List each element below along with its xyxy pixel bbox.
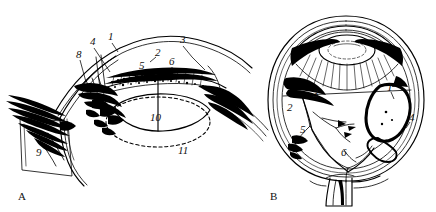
label-a-3: 3 (180, 34, 186, 45)
label-a-8: 8 (76, 49, 82, 60)
label-b-1: 1 (387, 82, 393, 93)
panel-b-leaders (0, 0, 436, 212)
label-a-11: 11 (178, 145, 188, 156)
label-a-4: 4 (90, 36, 96, 47)
label-a-9: 9 (36, 147, 42, 158)
label-a-2: 2 (155, 47, 161, 58)
label-b-6: 6 (341, 147, 347, 158)
label-a-5: 5 (139, 60, 145, 71)
label-b-5: 5 (300, 124, 306, 135)
label-b-3: 3 (313, 88, 319, 99)
label-a-1: 1 (108, 31, 114, 42)
label-a-6: 6 (169, 56, 175, 67)
label-b-2: 2 (287, 102, 293, 113)
panel-caption-b: B (270, 190, 277, 202)
label-a-10: 10 (150, 112, 161, 123)
panel-caption-a: A (18, 190, 26, 202)
label-b-4: 4 (409, 112, 415, 123)
figure-root: 1 2 3 4 5 6 8 9 10 11 1 2 3 4 5 6 A B (0, 0, 436, 212)
